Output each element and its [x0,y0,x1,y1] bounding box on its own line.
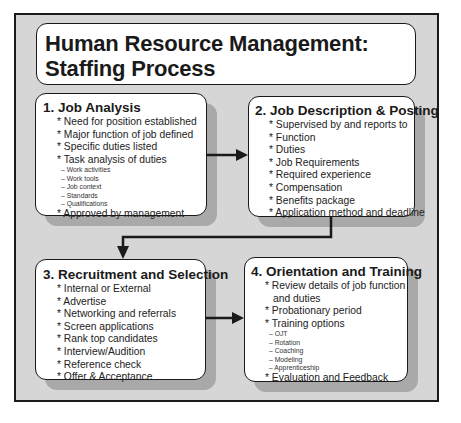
connectors [0,0,461,423]
arrow-3-to-4 [206,312,244,324]
arrow-1-to-2 [207,149,248,161]
arrow-2-to-3 [117,217,331,259]
